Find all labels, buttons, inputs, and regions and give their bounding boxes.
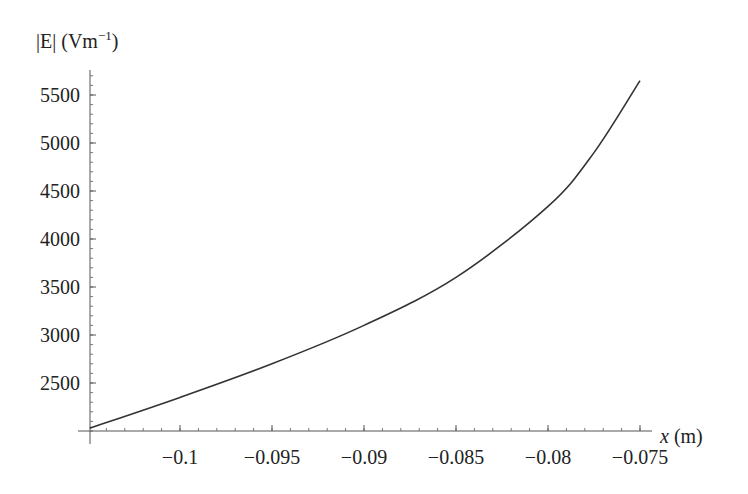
x-axis-title: x (m) [659, 425, 703, 448]
data-line [90, 81, 640, 429]
y-tick-label: 4500 [40, 180, 80, 202]
y-tick-label: 3000 [40, 324, 80, 346]
y-tick-labels: 2500300035004000450050005500 [40, 84, 80, 394]
y-tick-label: 3500 [40, 276, 80, 298]
x-tick-label: −0.08 [525, 446, 571, 468]
x-tick-labels: −0.1−0.095−0.09−0.085−0.08−0.075 [162, 446, 668, 468]
chart: 2500300035004000450050005500 −0.1−0.095−… [0, 0, 748, 494]
y-tick-label: 5000 [40, 132, 80, 154]
y-tick-label: 4000 [40, 228, 80, 250]
x-axis [78, 425, 652, 431]
y-tick-label: 5500 [40, 84, 80, 106]
y-tick-label: 2500 [40, 372, 80, 394]
y-axis-title: |E| (Vm−1) [36, 28, 118, 53]
x-tick-label: −0.09 [341, 446, 387, 468]
x-tick-label: −0.1 [162, 446, 198, 468]
y-axis [90, 70, 96, 444]
x-tick-label: −0.095 [244, 446, 300, 468]
x-tick-label: −0.075 [612, 446, 668, 468]
x-tick-label: −0.085 [428, 446, 484, 468]
